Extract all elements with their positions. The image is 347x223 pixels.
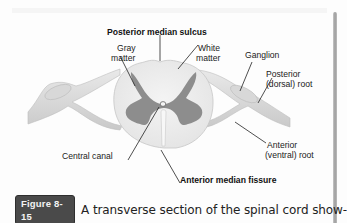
label-central-canal: Central canal: [62, 151, 113, 161]
central-canal: [160, 102, 166, 107]
label-posterior-root-2: (dorsal) root: [266, 79, 312, 89]
label-anterior-root-1: Anterior: [267, 140, 297, 150]
label-posterior-median-sulcus: Posterior median sulcus: [107, 27, 207, 37]
figure-caption: Figure 8-15 A transverse section of the …: [15, 202, 347, 218]
label-ganglion: Ganglion: [245, 50, 279, 60]
figure-number-badge: Figure 8-15: [15, 195, 75, 223]
textbook-page: Posterior median sulcus Gray matter Whit…: [0, 0, 347, 223]
anterior-median-fissure: [161, 110, 166, 146]
label-gray-matter-2: matter: [111, 53, 135, 63]
label-gray-matter-1: Gray: [117, 43, 136, 53]
label-anterior-median-fissure: Anterior median fissure: [180, 175, 276, 185]
label-white-matter-1: White: [198, 43, 220, 53]
caption-text: A transverse section of the spinal cord …: [81, 203, 347, 217]
left-spinal-nerve: [28, 69, 122, 130]
label-posterior-root-1: Posterior: [266, 69, 300, 79]
label-white-matter-2: matter: [196, 53, 220, 63]
label-anterior-root-2: (ventral) root: [265, 150, 314, 160]
